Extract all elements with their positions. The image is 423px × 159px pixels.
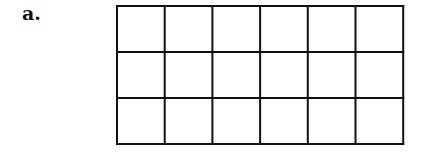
grid-cell bbox=[165, 98, 213, 144]
grid-cell bbox=[356, 52, 404, 98]
grid-cell bbox=[356, 98, 404, 144]
grid-cell bbox=[165, 6, 213, 52]
grid-drawing bbox=[116, 5, 405, 145]
grid-cell bbox=[212, 98, 260, 144]
grid-cell bbox=[308, 98, 356, 144]
grid-cell bbox=[260, 6, 308, 52]
grid-cell bbox=[308, 6, 356, 52]
grid-cell bbox=[356, 6, 404, 52]
figure-label: a. bbox=[22, 2, 41, 24]
rectangle-grid bbox=[116, 5, 405, 145]
grid-cell bbox=[308, 52, 356, 98]
grid-cell bbox=[212, 52, 260, 98]
grid-cell bbox=[117, 98, 165, 144]
grid-cell bbox=[117, 6, 165, 52]
grid-cell bbox=[165, 52, 213, 98]
grid-cell bbox=[260, 52, 308, 98]
grid-cell bbox=[260, 98, 308, 144]
grid-cell bbox=[117, 52, 165, 98]
grid-cell bbox=[212, 6, 260, 52]
